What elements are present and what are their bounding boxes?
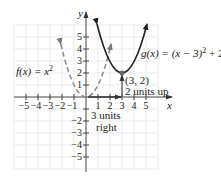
- x-tick-label: −3: [43, 100, 54, 111]
- y-tick-label: 5: [77, 31, 82, 42]
- y-tick-label: −5: [71, 151, 82, 162]
- x-tick-label: 5: [144, 100, 149, 111]
- x-tick-label: −2: [55, 100, 66, 111]
- y-tick-label: −2: [71, 115, 82, 126]
- g-label: g(x) = (x − 3)2 + 2: [141, 46, 221, 60]
- x-axis-label: x: [166, 99, 172, 111]
- y-tick-label: 3: [77, 55, 82, 66]
- graph-figure: −5 −4 −3 −2 −1 1 2 3 4 5 5 4 3 2 1 −2 −3…: [0, 0, 221, 184]
- x-tick-label: −4: [31, 100, 42, 111]
- right-label-1: 3 units: [91, 109, 121, 121]
- x-tick-label: 4: [132, 100, 137, 111]
- right-label-2: right: [96, 121, 117, 133]
- y-tick-label: 1: [77, 79, 82, 90]
- coordinate-plane: −5 −4 −3 −2 −1 1 2 3 4 5 5 4 3 2 1 −2 −3…: [0, 0, 221, 184]
- up-label: 2 units up: [125, 85, 169, 97]
- f-label: f(x) = x2: [16, 64, 53, 78]
- y-tick-label: −3: [71, 127, 82, 138]
- y-tick-label: −4: [71, 139, 82, 150]
- x-tick-label: −5: [19, 100, 30, 111]
- y-tick-label: 2: [77, 67, 82, 78]
- vertex-point: [120, 71, 125, 76]
- y-axis-label: y: [77, 7, 83, 19]
- y-tick-label: 4: [77, 43, 82, 54]
- x-tick-label: −1: [67, 100, 78, 111]
